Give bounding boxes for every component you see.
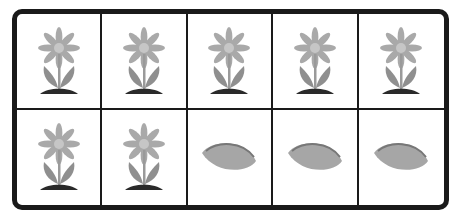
frame-cell-flower: [102, 110, 187, 206]
seed-icon: [284, 137, 346, 177]
frame-cell-seed: [188, 110, 273, 206]
flower-icon: [113, 24, 175, 98]
frame-cell-flower: [359, 14, 444, 110]
frame-cell-seed: [359, 110, 444, 206]
flower-icon: [113, 120, 175, 194]
frame-cell-flower: [102, 14, 187, 110]
flower-icon: [370, 24, 432, 98]
frame-cell-flower: [273, 14, 358, 110]
seed-icon: [370, 137, 432, 177]
frame-cell-flower: [17, 110, 102, 206]
flower-icon: [198, 24, 260, 98]
seed-icon: [198, 137, 260, 177]
ten-frame: [12, 9, 449, 210]
frame-cell-flower: [188, 14, 273, 110]
flower-icon: [28, 120, 90, 194]
frame-cell-flower: [17, 14, 102, 110]
frame-cell-seed: [273, 110, 358, 206]
flower-icon: [284, 24, 346, 98]
flower-icon: [28, 24, 90, 98]
